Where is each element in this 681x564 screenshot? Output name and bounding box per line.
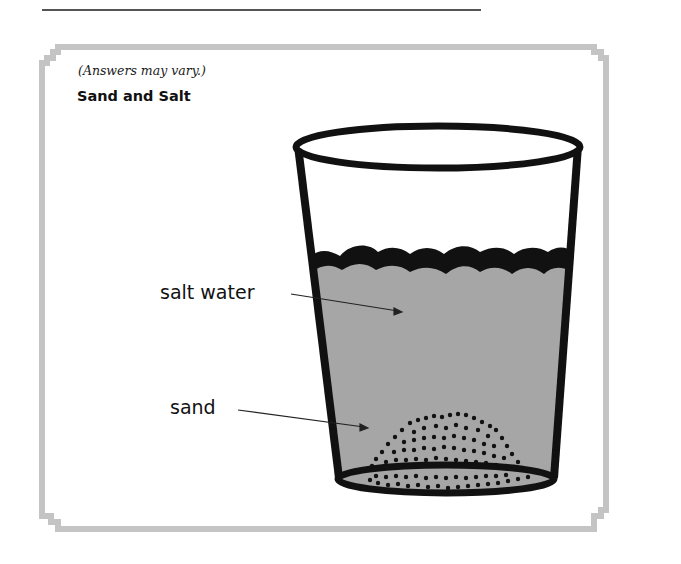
- activity-title: Sand and Salt: [77, 88, 191, 104]
- salt-water-region: [314, 260, 567, 477]
- salt-water-label: salt water: [160, 281, 254, 303]
- worksheet-frame-and-illustration: [0, 0, 681, 564]
- sand-label: sand: [170, 396, 216, 418]
- answers-may-vary-note: (Answers may vary.): [78, 63, 206, 78]
